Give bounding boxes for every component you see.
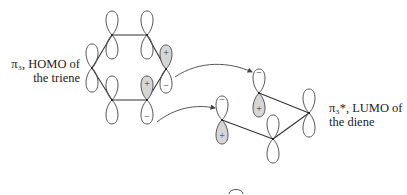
triene-label-line2: the triene (4, 71, 80, 85)
minus-sign: − (144, 111, 150, 122)
orbital-interaction-diagram: + − + − (0, 0, 407, 194)
minus-sign: − (219, 94, 225, 105)
triene-homo-label: π₃, HOMO of the triene (4, 57, 80, 85)
arrow-t3-to-d2 (175, 64, 252, 77)
triene-label-line1: π₃, HOMO of (4, 57, 80, 71)
plus-sign: + (256, 103, 262, 114)
minus-sign: − (256, 67, 262, 78)
triene-orbitals: + − + − (86, 11, 172, 124)
arrow-t4-to-d1 (157, 107, 215, 122)
diene-label-line1: π₃*, LUMO of (329, 101, 407, 115)
atom-centers (91, 34, 310, 140)
minus-sign: − (163, 80, 169, 91)
diene-orbitals: − + − + (216, 67, 315, 163)
diene-label-line2: the diene (329, 115, 407, 129)
plus-sign: + (219, 130, 225, 141)
partial-orbital-fragment (229, 190, 243, 195)
interaction-arrows (157, 64, 252, 122)
diene-lumo-label: π₃*, LUMO of the diene (329, 101, 407, 129)
diene-bonds (222, 93, 309, 139)
plus-sign: + (144, 78, 150, 89)
plus-sign: + (163, 47, 169, 58)
triene-bonds (92, 35, 166, 100)
